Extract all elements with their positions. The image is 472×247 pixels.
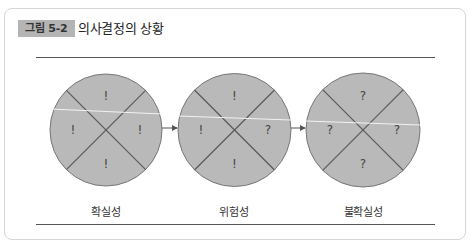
left-quadrant-mark: ! xyxy=(199,123,204,137)
label-risk: 위험성 xyxy=(184,203,284,219)
label-uncertainty: 불확실성 xyxy=(313,203,413,219)
circle-uncertainty: ? ? ? ? xyxy=(306,73,420,187)
right-quadrant-mark: ! xyxy=(138,123,143,137)
bottom-quadrant-mark: ! xyxy=(232,157,237,171)
circle-certainty: ! ! ! ! xyxy=(50,74,162,186)
label-certainty: 확실성 xyxy=(56,203,156,219)
right-quadrant-mark: ? xyxy=(394,123,400,137)
bottom-quadrant-mark: ? xyxy=(360,157,366,171)
left-quadrant-mark: ! xyxy=(71,123,76,137)
top-quadrant-mark: ! xyxy=(232,89,237,103)
right-quadrant-mark: ? xyxy=(265,123,271,137)
bottom-quadrant-mark: ! xyxy=(104,157,109,171)
top-quadrant-mark: ? xyxy=(360,89,366,103)
circle-risk: ! ! ? ! xyxy=(178,74,291,187)
top-quadrant-mark: ! xyxy=(104,89,109,103)
left-quadrant-mark: ? xyxy=(327,123,333,137)
